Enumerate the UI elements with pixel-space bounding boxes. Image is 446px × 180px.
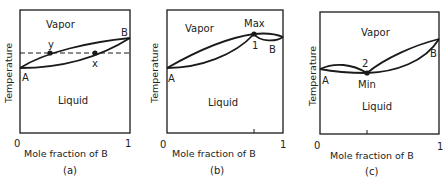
x-tick-1: 1 [437,141,443,152]
y-axis-label: Temperature [3,43,14,104]
region-liquid-label: Liquid [362,101,392,112]
point-a-label: A [22,72,29,83]
point-b-label: B [430,48,437,59]
azeotrope-number: 2 [362,58,368,69]
max-label: Max [244,18,265,29]
region-vapor-label: Vapor [185,23,215,34]
panel-caption: (b) [210,165,224,176]
x-axis-label: Mole fraction of B [24,148,108,159]
x-axis-label: Mole fraction of B [330,150,414,161]
x-tick-0: 0 [14,138,20,149]
region-vapor-label: Vapor [361,27,391,38]
bubble-curve-left [167,34,254,68]
x-tick-0: 0 [160,139,166,150]
panel-c: Vapor Liquid 2 Min A B 0 1 Mole fraction… [307,12,443,177]
dew-curve-right [367,39,439,73]
min-label: Min [358,79,376,90]
max-azeotrope-marker [251,31,256,36]
azeotrope-number: 1 [252,40,258,51]
panel-caption: (c) [365,166,378,177]
point-x-marker [92,50,97,55]
point-a-label: A [322,75,329,86]
dew-curve-left [167,34,254,68]
x-axis-label: Mole fraction of B [172,148,256,159]
x-tick-0: 0 [314,140,320,151]
panel-b: Vapor Liquid Max 1 B A 0 1 Mole fraction… [149,10,286,176]
point-y-marker [47,50,52,55]
y-axis-label: Temperature [149,43,160,104]
x-tick-1: 1 [125,138,131,149]
point-x-label: x [92,58,98,69]
min-azeotrope-marker [364,70,369,75]
bubble-curve-right [367,39,439,73]
point-a-label: A [168,73,175,84]
point-b-label: B [121,27,128,38]
phase-diagrams: Vapor Liquid y x A B 0 1 Mole fraction o… [0,0,446,180]
point-b-label: B [269,44,276,55]
plot-frame [20,10,130,133]
panel-caption: (a) [63,165,77,176]
panel-a: Vapor Liquid y x A B 0 1 Mole fraction o… [3,10,131,176]
point-y-label: y [48,39,54,50]
region-vapor-label: Vapor [46,19,76,30]
region-liquid-label: Liquid [58,95,88,106]
dew-curve-right [254,34,283,37]
y-axis-label: Temperature [307,46,318,107]
x-tick-1: 1 [280,139,286,150]
region-liquid-label: Liquid [208,97,238,108]
